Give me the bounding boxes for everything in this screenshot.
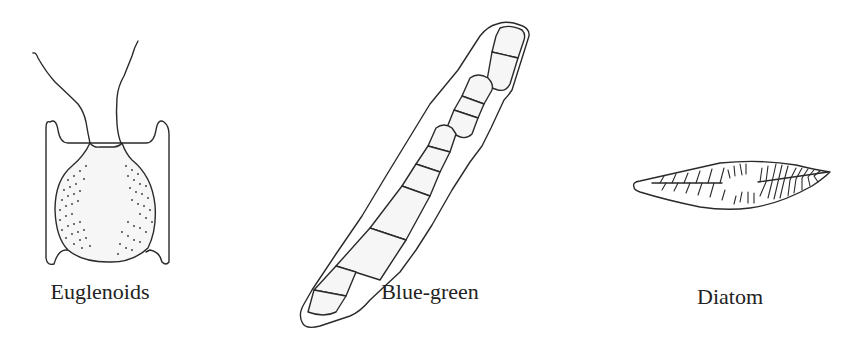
- label-diatom: Diatom: [697, 286, 763, 308]
- euglenoid-flagellum-right: [117, 41, 139, 143]
- euglenoid-flagellum-left: [33, 53, 90, 143]
- euglenoid-drawing: [33, 41, 169, 264]
- diatom-valve-outline: [634, 161, 830, 209]
- blue-green-cells: [308, 26, 525, 315]
- euglenoid-body: [55, 143, 155, 262]
- diatom-drawing: [634, 161, 830, 209]
- label-blue-green: Blue-green: [381, 281, 479, 303]
- label-euglenoids: Euglenoids: [51, 281, 150, 303]
- diatom-striae: [660, 164, 820, 204]
